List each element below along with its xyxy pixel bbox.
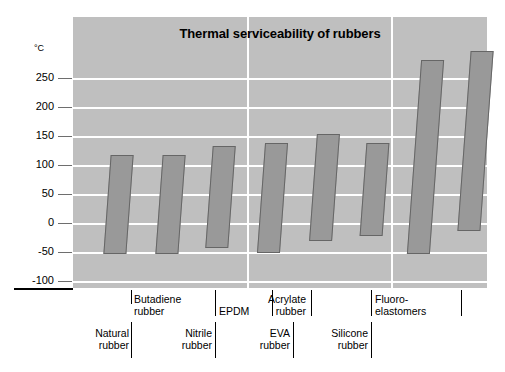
y-tick-mark-minus100 <box>58 281 72 282</box>
bar-natural-rubber <box>103 155 133 254</box>
category-label-line1: Acrylate <box>240 293 306 305</box>
y-tick-label-minus100: -100 <box>8 275 54 286</box>
category-tick-8 <box>371 322 372 358</box>
category-tick-4 <box>215 290 216 316</box>
category-tick-7 <box>311 290 312 316</box>
category-label-line1: Butadiene <box>134 293 206 305</box>
y-tick-mark-200 <box>58 107 72 108</box>
category-tick-3 <box>215 322 216 358</box>
category-label-line1: EVA <box>228 327 290 339</box>
category-label-line2: rubber <box>63 339 129 351</box>
category-label-line2: rubber <box>300 339 368 351</box>
category-tick-6 <box>293 322 294 358</box>
category-label-eva-rubber: EVA rubber <box>228 327 290 351</box>
thermal-serviceability-chart: Thermal serviceability of rubbers °C 250… <box>0 0 505 372</box>
y-tick-label-50: 50 <box>8 188 54 199</box>
y-tick-label-0: 0 <box>8 217 54 228</box>
bar-butadiene-rubber <box>155 155 185 254</box>
category-tick-10 <box>461 290 462 316</box>
category-tick-9 <box>371 290 372 316</box>
category-label-fluoro-elastomers: Fluoro- elastomers <box>375 293 457 317</box>
y-tick-mark-250 <box>58 78 72 79</box>
y-tick-mark-100 <box>58 165 72 166</box>
chart-title: Thermal serviceability of rubbers <box>73 26 487 41</box>
y-tick-label-250: 250 <box>8 72 54 83</box>
group-separator-1 <box>247 17 249 288</box>
y-tick-label-minus50: -50 <box>8 246 54 257</box>
plot-area <box>73 17 487 288</box>
y-tick-label-150: 150 <box>8 130 54 141</box>
category-tick-1 <box>131 322 132 358</box>
category-label-silicone-rubber: Silicone rubber <box>300 327 368 351</box>
axis-unit-label: °C <box>34 44 44 53</box>
category-label-nitrile-rubber: Nitrile rubber <box>150 327 212 351</box>
y-tick-label-200: 200 <box>8 101 54 112</box>
category-label-line1: Natural <box>63 327 129 339</box>
category-label-natural-rubber: Natural rubber <box>63 327 129 351</box>
y-tick-mark-0 <box>58 223 72 224</box>
category-tick-2 <box>131 290 132 304</box>
bar-nitrile-rubber <box>205 146 235 248</box>
category-label-line2: rubber <box>134 305 206 317</box>
category-label-line2: rubber <box>228 339 290 351</box>
category-label-line2: rubber <box>240 305 306 317</box>
gridline-minus100 <box>73 281 487 283</box>
category-label-line1: Silicone <box>300 327 368 339</box>
y-tick-mark-minus50 <box>58 252 72 253</box>
category-label-butadiene-rubber: Butadiene rubber <box>134 293 206 317</box>
category-label-line2: rubber <box>150 339 212 351</box>
category-label-line1: Fluoro- <box>375 293 457 305</box>
axis-baseline <box>14 288 73 290</box>
y-tick-mark-50 <box>58 194 72 195</box>
category-label-line2: elastomers <box>375 305 457 317</box>
category-label-line1: Nitrile <box>150 327 212 339</box>
y-tick-label-100: 100 <box>8 159 54 170</box>
bar-epdm <box>257 143 288 253</box>
y-tick-mark-150 <box>58 136 72 137</box>
category-label-acrylate-rubber: Acrylate rubber <box>240 293 306 317</box>
group-separator-2 <box>391 17 393 288</box>
